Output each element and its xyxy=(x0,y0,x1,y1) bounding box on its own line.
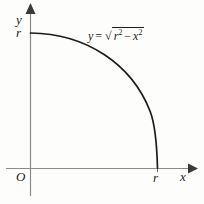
math-figure: y r O r x y=√r2−x2 xyxy=(0,0,204,204)
equation-term2-exponent: 2 xyxy=(138,28,142,37)
y-intercept-label: r xyxy=(16,26,21,39)
y-axis-arrowhead xyxy=(26,3,36,14)
equation-radicand: r2−x2 xyxy=(112,27,145,42)
equation-equals: = xyxy=(93,29,104,43)
radical-sign: √ xyxy=(105,29,112,43)
x-intercept-label: r xyxy=(153,171,158,184)
quarter-circle-curve xyxy=(31,33,158,168)
x-axis-arrowhead xyxy=(188,164,198,174)
origin-label: O xyxy=(16,170,25,183)
equation-radical: √r2−x2 xyxy=(104,27,144,42)
equation-minus: − xyxy=(122,29,133,43)
x-axis-label: x xyxy=(180,170,186,183)
curve-equation-label: y=√r2−x2 xyxy=(88,27,144,42)
